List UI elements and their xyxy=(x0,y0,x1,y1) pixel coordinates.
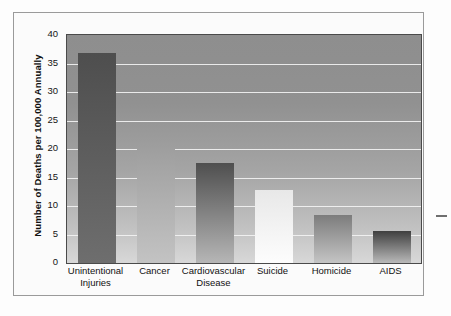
y-tick-label-5: 5 xyxy=(38,229,58,239)
bar-cancer[interactable] xyxy=(137,144,175,263)
gridline-35 xyxy=(67,64,421,65)
gridline-25 xyxy=(67,121,421,122)
plot-area xyxy=(66,34,422,264)
y-tick-label-40: 40 xyxy=(38,29,58,39)
x-label-homicide: Homicide xyxy=(298,265,365,277)
x-label-cardiovascular-disease: Cardiovascular Disease xyxy=(180,265,247,288)
chart-figure: Number of Deaths per 100,000 Annually 05… xyxy=(0,0,451,316)
y-tick-label-15: 15 xyxy=(38,172,58,182)
y-tick-label-25: 25 xyxy=(38,115,58,125)
bar-unintentional-injuries[interactable] xyxy=(78,53,116,263)
bar-aids[interactable] xyxy=(373,231,411,263)
bar-cardiovascular-disease[interactable] xyxy=(196,163,234,263)
y-tick-label-20: 20 xyxy=(38,143,58,153)
gridline-20 xyxy=(67,149,421,150)
x-label-suicide: Suicide xyxy=(239,265,306,277)
bar-homicide[interactable] xyxy=(314,215,352,263)
gridline-10 xyxy=(67,206,421,207)
gridline-15 xyxy=(67,178,421,179)
y-tick-label-0: 0 xyxy=(38,257,58,267)
x-axis-category-labels: Unintentional InjuriesCancerCardiovascul… xyxy=(66,265,420,305)
right-edge-dash-marker xyxy=(436,215,447,217)
x-label-unintentional-injuries: Unintentional Injuries xyxy=(62,265,129,288)
gridline-30 xyxy=(67,92,421,93)
gridline-5 xyxy=(67,235,421,236)
x-label-aids: AIDS xyxy=(357,265,424,277)
x-label-cancer: Cancer xyxy=(121,265,188,277)
y-tick-label-30: 30 xyxy=(38,86,58,96)
y-tick-label-10: 10 xyxy=(38,200,58,210)
bar-suicide[interactable] xyxy=(255,190,293,263)
y-tick-label-35: 35 xyxy=(38,58,58,68)
y-axis-tick-labels: 0510152025303540 xyxy=(36,0,58,316)
